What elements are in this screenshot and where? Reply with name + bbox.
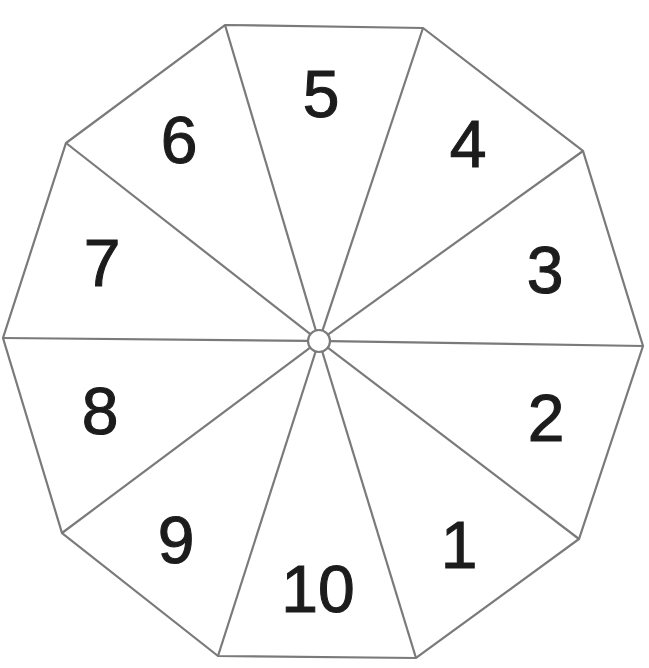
decagon-spinner: 1 2 3 4 5 6 7 8 9 10 (0, 0, 649, 668)
sector-label-3: 3 (527, 233, 564, 307)
sector-label-4: 4 (450, 107, 487, 181)
sector-label-10: 10 (281, 552, 354, 626)
spoke-line (330, 341, 643, 346)
sector-label-5: 5 (303, 57, 340, 131)
sector-label-9: 9 (158, 503, 195, 577)
sector-label-8: 8 (82, 374, 119, 448)
sector-label-1: 1 (441, 508, 478, 582)
sector-label-7: 7 (84, 226, 121, 300)
center-hub (308, 330, 330, 352)
sector-label-2: 2 (528, 381, 565, 455)
sector-label-6: 6 (161, 103, 198, 177)
spoke-line (3, 338, 308, 341)
